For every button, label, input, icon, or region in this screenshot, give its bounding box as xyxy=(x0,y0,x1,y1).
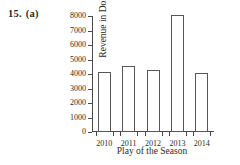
y-axis-line xyxy=(92,16,93,132)
bar-chart-figure: Revenue in Dollars 010002000300040005000… xyxy=(0,0,240,165)
x-tick-mark xyxy=(96,132,97,136)
y-tick-mark xyxy=(88,132,92,133)
bar xyxy=(147,70,160,132)
bar xyxy=(98,72,111,132)
plot-area: 010002000300040005000600070008000 201020… xyxy=(92,16,214,132)
y-tick-mark xyxy=(88,74,92,75)
y-tick-label: 0 xyxy=(82,128,86,136)
y-tick-mark xyxy=(88,89,92,90)
y-tick-mark xyxy=(88,118,92,119)
y-tick-mark xyxy=(88,31,92,32)
y-tick-mark xyxy=(88,16,92,17)
x-tick-mark xyxy=(186,132,187,136)
bar xyxy=(171,15,184,132)
x-tick-mark xyxy=(113,132,114,136)
y-tick-label: 6000 xyxy=(70,41,86,49)
y-tick-label: 4000 xyxy=(70,70,86,78)
y-tick-label: 2000 xyxy=(70,99,86,107)
x-tick-mark xyxy=(120,132,121,136)
y-tick-label: 8000 xyxy=(70,12,86,20)
x-tick-mark xyxy=(145,132,146,136)
x-tick-mark xyxy=(169,132,170,136)
y-tick-mark xyxy=(88,103,92,104)
y-tick-label: 3000 xyxy=(70,85,86,93)
x-tick-mark xyxy=(193,132,194,136)
y-tick-label: 5000 xyxy=(70,56,86,64)
bar xyxy=(195,73,208,132)
y-tick-mark xyxy=(88,60,92,61)
x-axis-title: Play of the Season xyxy=(90,146,214,156)
x-tick-mark xyxy=(162,132,163,136)
x-tick-mark xyxy=(210,132,211,136)
y-tick-label: 7000 xyxy=(70,27,86,35)
y-tick-mark xyxy=(88,45,92,46)
x-tick-mark xyxy=(137,132,138,136)
y-tick-label: 1000 xyxy=(70,114,86,122)
bar xyxy=(122,66,135,132)
